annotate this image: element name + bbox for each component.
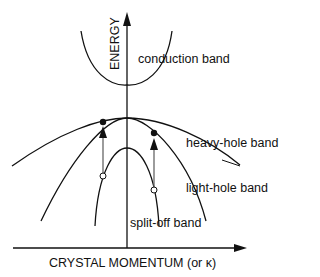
momentum-axis-arrowhead	[234, 244, 247, 252]
energy-axis-label: ENERGY	[108, 17, 122, 70]
momentum-axis-label: CRYSTAL MOMENTUM (or κ)	[49, 256, 216, 270]
energy-axis-arrowhead	[123, 12, 131, 26]
heavy-hole-band-label: heavy-hole band	[186, 136, 278, 150]
open-hole-dot-left	[100, 173, 106, 179]
light-hole-band-curve	[41, 118, 206, 221]
light-hole-band-label: light-hole band	[186, 181, 268, 195]
split-off-band-label: split-off band	[130, 216, 201, 230]
conduction-band-label: conduction band	[138, 52, 230, 66]
open-hole-dot-right	[151, 187, 157, 193]
filled-electron-dot-left	[100, 119, 106, 125]
transition-arrowhead-right	[150, 138, 158, 150]
filled-electron-dot-right	[151, 130, 157, 136]
